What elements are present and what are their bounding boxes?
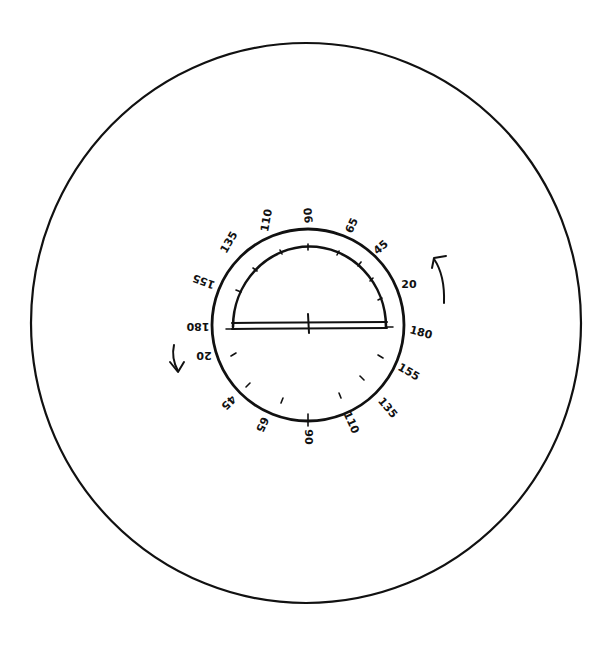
protractor-center-tick xyxy=(308,314,309,333)
label-65-top: 65 xyxy=(343,216,361,235)
label-20-right: 20 xyxy=(401,278,417,291)
label-155-right: 155 xyxy=(396,361,422,384)
label-45-bottom: 45 xyxy=(218,392,238,412)
label-180-right: 180 xyxy=(408,323,434,342)
label-180-left: 180 xyxy=(186,320,209,333)
label-135-right: 135 xyxy=(375,395,400,421)
label-110-top: 110 xyxy=(258,208,275,233)
label-135-top: 135 xyxy=(218,229,241,255)
arrow-right-up-icon xyxy=(432,256,446,303)
label-155-left: 155 xyxy=(191,271,217,291)
dial-lower-ticks xyxy=(231,353,383,426)
upper-scale-labels: 135 110 90 65 45 20 180 155 135 xyxy=(218,207,434,421)
label-110-bottom: 110 xyxy=(340,409,362,436)
lower-scale-labels: 155 180 20 45 65 90 110 xyxy=(186,271,362,445)
label-20-left: 20 xyxy=(196,349,212,362)
label-90-top: 90 xyxy=(301,207,315,224)
protractor-diagram: 135 110 90 65 45 20 180 155 135 155 180 … xyxy=(0,0,611,647)
protractor-arc xyxy=(233,246,386,327)
diagram-canvas: 135 110 90 65 45 20 180 155 135 155 180 … xyxy=(0,0,611,647)
label-90-bottom: 90 xyxy=(302,429,315,445)
arrow-left-down-icon xyxy=(170,345,184,372)
protractor-ticks xyxy=(236,244,382,300)
label-65-bottom: 65 xyxy=(253,415,271,434)
